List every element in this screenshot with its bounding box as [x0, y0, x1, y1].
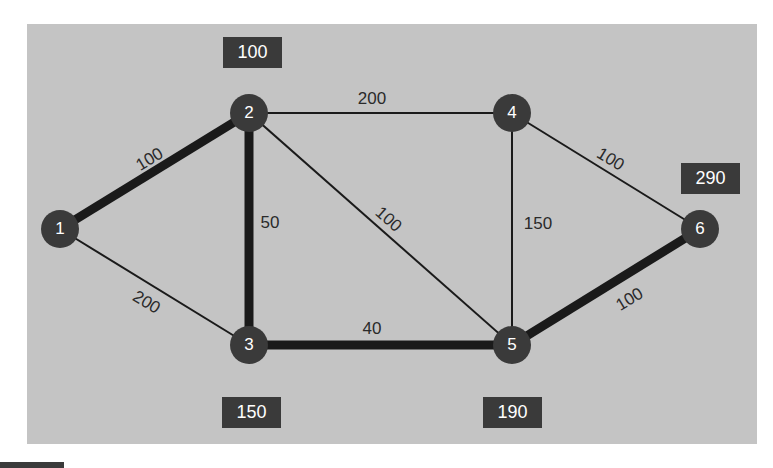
node-3[interactable]: 3	[230, 326, 268, 364]
distance-label-node-6: 290	[681, 163, 740, 194]
edge-weight-label: 200	[358, 89, 386, 108]
distance-labels-layer: 100150190290	[222, 37, 740, 428]
distance-value: 290	[695, 168, 725, 188]
shortest-path-graph: 1002005020010040150100100 123456 1001501…	[0, 0, 773, 468]
distance-label-node-3: 150	[222, 397, 281, 428]
node-label: 1	[55, 219, 64, 238]
edge-weight-label: 100	[593, 144, 627, 175]
node-label: 5	[507, 335, 516, 354]
edge-2-5	[249, 113, 512, 345]
distance-label-node-5: 190	[483, 397, 542, 428]
edge-weight-label: 100	[372, 203, 406, 236]
edge-4-6	[512, 113, 700, 229]
edge-weight-label: 100	[612, 284, 646, 315]
distance-value: 150	[236, 402, 266, 422]
node-1[interactable]: 1	[41, 210, 79, 248]
node-5[interactable]: 5	[493, 326, 531, 364]
distance-value: 190	[497, 402, 527, 422]
edge-weight-label: 200	[129, 287, 163, 318]
distance-label-node-2: 100	[223, 37, 282, 68]
edge-1-2-highlighted	[60, 113, 249, 229]
edge-5-6-highlighted	[512, 229, 700, 345]
node-4[interactable]: 4	[493, 94, 531, 132]
edge-weight-label: 40	[363, 319, 382, 338]
node-label: 2	[244, 103, 253, 122]
node-label: 6	[695, 219, 704, 238]
edge-weight-label: 50	[261, 213, 280, 232]
node-2[interactable]: 2	[230, 94, 268, 132]
node-6[interactable]: 6	[681, 210, 719, 248]
distance-value: 100	[237, 42, 267, 62]
edge-weight-label: 150	[524, 214, 552, 233]
edge-1-3	[60, 229, 249, 345]
node-label: 3	[244, 335, 253, 354]
node-label: 4	[507, 103, 516, 122]
edge-labels-layer: 1002005020010040150100100	[129, 89, 646, 338]
